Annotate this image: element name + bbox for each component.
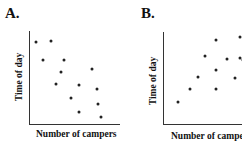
panel-b-y-axis-label: Time of day [148,57,158,105]
panel-b-x-axis-label: Number of campers [171,131,242,141]
data-point [215,39,218,42]
data-point [225,57,228,60]
data-point [234,77,237,80]
data-point [238,35,241,38]
data-point [204,54,207,57]
data-point [177,100,180,103]
data-point [215,88,218,91]
data-point [189,88,192,91]
data-point [215,68,218,71]
data-point [197,76,200,79]
panel-b-axes [163,32,242,125]
data-point [238,56,241,59]
panel-b-label: B. [141,6,155,21]
scatter-panel-b: B. Time of day Number of campers [0,0,242,147]
